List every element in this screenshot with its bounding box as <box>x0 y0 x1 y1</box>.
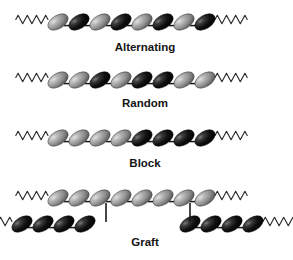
row-label-block: Block <box>129 157 161 169</box>
row-label-random: Random <box>122 97 168 109</box>
copolymer-diagram: AlternatingRandomBlockGraft <box>0 0 293 260</box>
row-label-alternating: Alternating <box>115 41 176 53</box>
row-label-graft: Graft <box>131 236 159 248</box>
diagram-canvas: AlternatingRandomBlockGraft <box>0 0 293 260</box>
